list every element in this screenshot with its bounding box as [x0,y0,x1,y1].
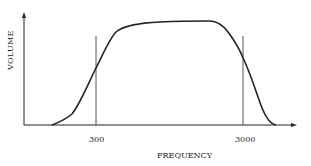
tick-label-300: 300 [89,135,104,144]
y-axis-label: VOLUME [6,30,15,70]
frequency-response-diagram: VOLUME 300 3000 FREQUENCY [0,0,311,166]
x-axis-arrow-icon [291,123,297,127]
chart-canvas [0,0,311,166]
tick-label-3000: 3000 [235,135,255,144]
response-curve [52,21,276,125]
x-axis-label: FREQUENCY [157,151,212,160]
y-axis-arrow-icon [22,12,26,18]
